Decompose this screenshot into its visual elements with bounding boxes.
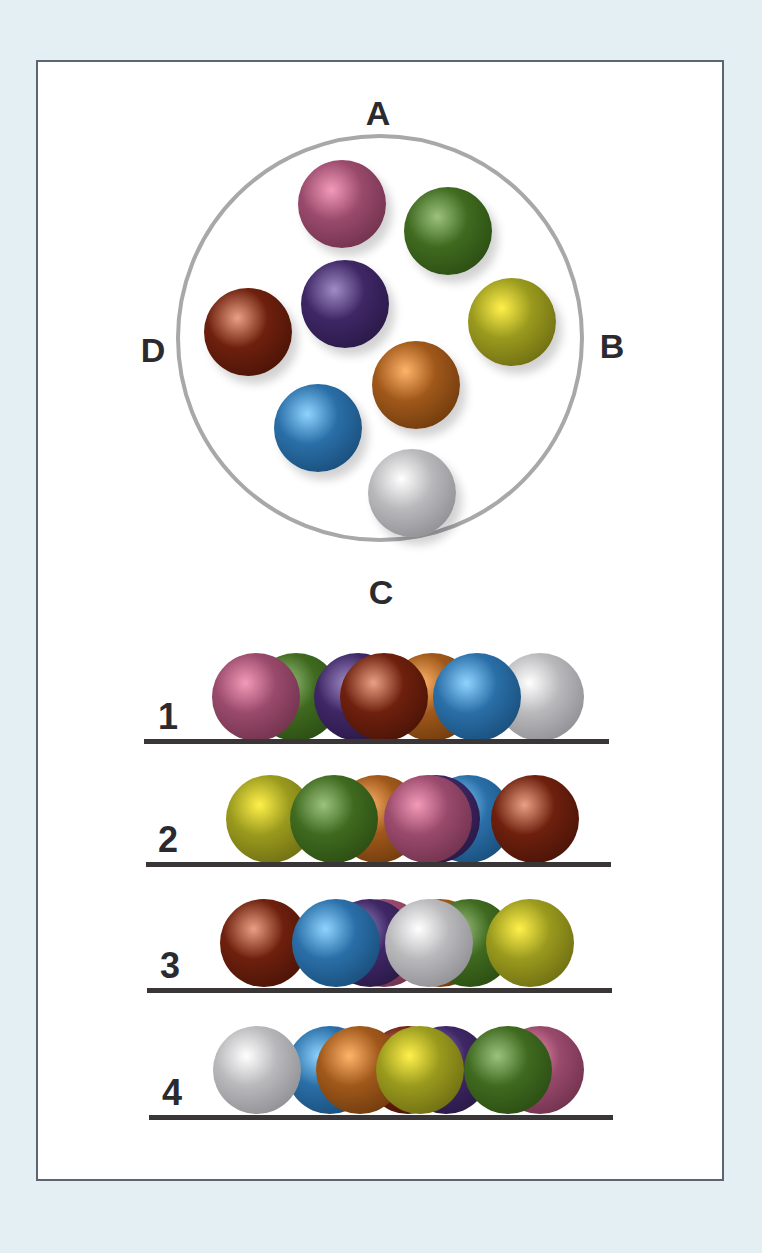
ball-orange [372,341,460,429]
direction-label-c: C [369,575,394,609]
ball-pink [298,160,386,248]
ball-brown [491,775,579,863]
ball-pink [212,653,300,741]
option-number-label: 1 [158,699,178,735]
ball-brown [204,288,292,376]
ball-white [368,449,456,537]
diagram-stage: A B C D 1234 [0,0,762,1253]
shelf-line [149,1115,613,1120]
option-number-label: 2 [158,822,178,858]
ball-white [385,899,473,987]
ball-pink [384,775,472,863]
ball-blue [292,899,380,987]
ball-green [404,187,492,275]
shelf-line [144,739,609,744]
option-number-label: 4 [162,1075,182,1111]
ball-green [290,775,378,863]
ball-white [213,1026,301,1114]
direction-label-d: D [141,333,166,367]
ball-blue [274,384,362,472]
ball-brown [340,653,428,741]
ball-yellow [376,1026,464,1114]
ball-blue [433,653,521,741]
ball-yellow [486,899,574,987]
ball-purple [301,260,389,348]
direction-label-b: B [600,329,625,363]
shelf-line [146,862,611,867]
shelf-line [147,988,612,993]
ball-green [464,1026,552,1114]
ball-yellow [468,278,556,366]
direction-label-a: A [366,96,391,130]
option-number-label: 3 [160,948,180,984]
